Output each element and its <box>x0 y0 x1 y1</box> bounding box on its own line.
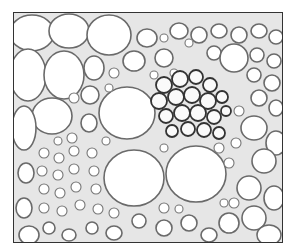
micrograph-frame: Light micrograph cross-section of a plan… <box>13 12 283 243</box>
plant-tissue-micrograph <box>14 13 283 243</box>
